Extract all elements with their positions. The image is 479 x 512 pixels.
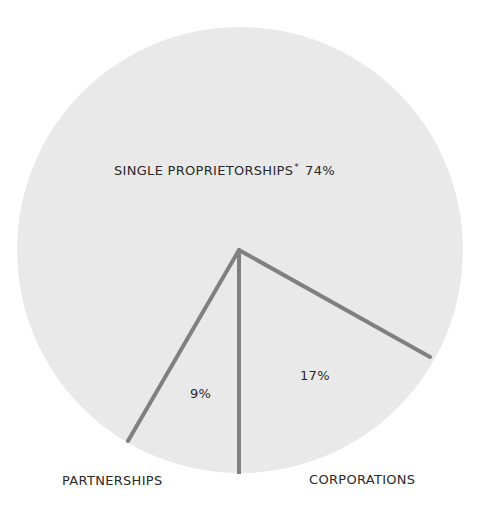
slice-pct-corporations: 17% [300, 368, 330, 383]
slice-label-single-proprietorships: SINGLE PROPRIETORSHIPS*74% [114, 163, 335, 178]
single-pct: 74% [305, 163, 335, 178]
slice-label-partnerships: PARTNERSHIPS [62, 473, 162, 488]
single-label: SINGLE PROPRIETORSHIPS [114, 163, 293, 178]
slice-label-corporations: CORPORATIONS [309, 472, 415, 487]
footnote-marker: * [294, 162, 299, 172]
slice-pct-partnerships: 9% [190, 386, 211, 401]
pie-chart [0, 0, 479, 512]
